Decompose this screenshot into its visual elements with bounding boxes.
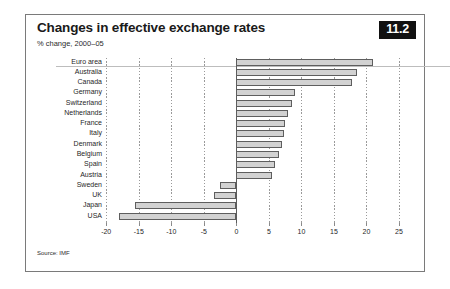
header-divider [56, 66, 450, 67]
source-note: Source: IMF [37, 250, 70, 256]
chart-title: Changes in effective exchange rates [37, 20, 265, 35]
figure-number-badge: 11.2 [379, 21, 416, 39]
screenshot-root: 11.2 Changes in effective exchange rates… [0, 0, 450, 289]
chart-card: 11.2 [25, 14, 425, 272]
chart-subtitle: % change, 2000–05 [37, 39, 104, 48]
